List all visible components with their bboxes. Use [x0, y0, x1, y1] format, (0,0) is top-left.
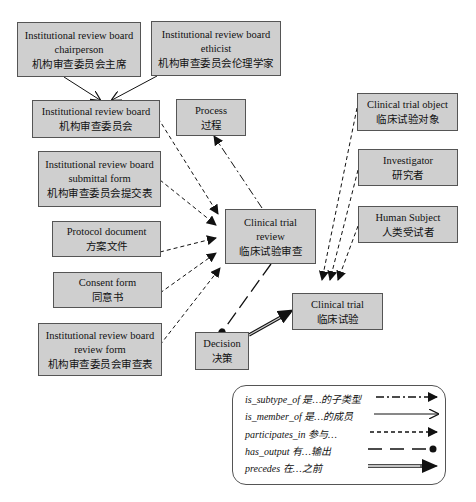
legend-item-participates-in: participates_in 参与…: [245, 426, 337, 441]
node-label-zh: 同意书: [92, 290, 124, 304]
node-irb-submittal-form: Institutional review board submittal for…: [38, 151, 161, 207]
node-label-zh: 决策: [212, 351, 233, 365]
edge-consent-review: [160, 253, 216, 293]
node-label-zh: 临床试验对象: [376, 112, 439, 126]
node-human-subject: Human Subject 人类受试者: [358, 206, 458, 243]
node-label-en: Human Subject: [375, 211, 440, 225]
node-irb-review-form: Institutional review board review form 机…: [38, 323, 162, 376]
edge-decision-trial-inner: [249, 312, 290, 335]
node-label-en: Institutional review board: [46, 329, 154, 343]
node-decision: Decision 决策: [195, 332, 249, 370]
edge-ethicist-irb: [112, 76, 157, 100]
node-label-en: Protocol document: [67, 225, 147, 239]
node-label-en: Institutional review board: [162, 28, 270, 42]
node-irb: Institutional review board 机构审查委员会: [32, 100, 160, 138]
node-label-en: Consent form: [79, 276, 136, 290]
node-label-en: Clinical trial object: [367, 98, 448, 112]
node-label-zh: 方案文件: [86, 239, 128, 253]
node-label-en: Clinical trial: [311, 298, 364, 312]
node-label-en: Investigator: [383, 154, 433, 168]
node-label-zh: 临床试验审查: [239, 244, 302, 258]
node-consent-form: Consent form 同意书: [53, 272, 162, 308]
edge-protocol-review: [160, 238, 216, 252]
node-label-zh: 机构审查委员会提交表: [47, 186, 152, 200]
node-label-en: Clinical trial: [244, 216, 297, 230]
node-label-zh: 机构审查委员会: [59, 119, 133, 133]
node-label-en2: submittal form: [68, 172, 130, 186]
node-label-en: Process: [195, 104, 227, 118]
node-label-zh: 机构审查委员会伦理学家: [158, 56, 274, 70]
node-irb-chairperson: Institutional review board chairperson 机…: [17, 22, 141, 77]
edge-review-decision: [222, 264, 271, 332]
node-label-en: Institutional review board: [45, 158, 153, 172]
node-label-en2: chairperson: [55, 43, 104, 57]
node-label-en2: ethicist: [201, 42, 231, 56]
node-irb-ethicist: Institutional review board ethicist 机构审查…: [151, 21, 281, 76]
node-label-en: Institutional review board: [42, 105, 150, 119]
node-process: Process 过程: [176, 99, 246, 136]
legend: is_subtype_of 是…的子类型 is_member_of 是…的成员 …: [232, 385, 446, 485]
legend-item-is-subtype-of: is_subtype_of 是…的子类型: [245, 391, 361, 406]
node-label-zh: 研究者: [392, 168, 424, 182]
node-clinical-trial-object: Clinical trial object 临床试验对象: [357, 93, 458, 131]
node-label-zh: 过程: [201, 118, 222, 132]
edge-human-trial: [338, 226, 358, 280]
node-label-zh: 机构审查委员会审查表: [48, 357, 153, 371]
node-label-zh: 人类受试者: [382, 225, 435, 239]
node-label-en2: review: [256, 230, 285, 244]
legend-item-precedes: precedes 在…之前: [245, 460, 322, 475]
node-label-zh: 临床试验: [317, 312, 359, 326]
edge-investigator-trial: [330, 170, 358, 280]
node-clinical-trial: Clinical trial 临床试验: [292, 293, 383, 330]
legend-item-has-output: has_output 有…输出: [245, 443, 331, 458]
edge-chair-irb: [64, 77, 100, 100]
node-label-en: Institutional review board: [25, 29, 133, 43]
node-label-zh: 机构审查委员会主席: [32, 57, 127, 71]
edge-review-process: [214, 136, 262, 208]
node-clinical-trial-review: Clinical trial review 临床试验审查: [225, 209, 316, 264]
node-label-en2: review form: [74, 343, 126, 357]
node-protocol-document: Protocol document 方案文件: [52, 221, 161, 257]
node-investigator: Investigator 研究者: [358, 149, 458, 186]
node-label-en: Decision: [203, 337, 240, 351]
legend-item-is-member-of: is_member_of 是…的成员: [245, 408, 353, 423]
edge-submittal-review: [160, 180, 216, 225]
